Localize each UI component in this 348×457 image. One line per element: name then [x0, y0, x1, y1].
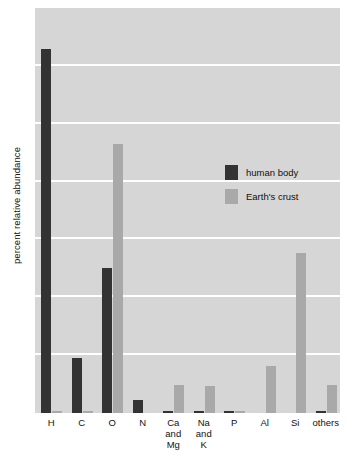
legend: human body Earth's crust — [225, 160, 299, 208]
x-axis-tick-label-line: C — [68, 417, 97, 428]
x-axis-tick-label-line: Na — [190, 417, 219, 428]
legend-label-human-body: human body — [246, 167, 298, 178]
bar — [327, 385, 337, 413]
bar — [235, 411, 245, 413]
x-axis-tick-label: C — [66, 417, 97, 450]
x-axis-tick-label-line: and — [159, 428, 188, 439]
x-axis-tick-label: Si — [279, 417, 310, 450]
bar-group — [249, 8, 280, 413]
x-axis-tick-label: P — [218, 417, 249, 450]
legend-swatch-icon-human-body — [225, 165, 238, 180]
x-axis-tick-labels: HCONCaandMgNaandKPAlSiothers — [35, 417, 340, 450]
bar — [316, 411, 326, 413]
x-axis-tick-label-line: Ca — [159, 417, 188, 428]
bar-groups — [35, 8, 340, 413]
bar-group — [310, 8, 341, 413]
bar — [224, 411, 234, 413]
bar-group — [127, 8, 158, 413]
bar-group — [279, 8, 310, 413]
x-axis-tick-label-line: Al — [251, 417, 280, 428]
bar — [133, 400, 143, 413]
bar-chart: percent relative abundance human body Ea… — [0, 0, 348, 457]
x-axis-tick-label: NaandK — [188, 417, 219, 450]
x-axis-tick-label: N — [127, 417, 158, 450]
bar — [102, 268, 112, 413]
x-axis-tick-label-line: others — [312, 417, 341, 428]
bar-group — [188, 8, 219, 413]
x-axis-tick-label: others — [310, 417, 341, 450]
x-axis-tick-label-line: P — [220, 417, 249, 428]
x-axis-tick-label-line: H — [37, 417, 66, 428]
bar — [41, 49, 51, 414]
bar — [163, 411, 173, 413]
x-axis-tick-label-line: and — [190, 428, 219, 439]
bar — [205, 386, 215, 413]
x-axis-tick-label-line: Mg — [159, 439, 188, 450]
bar — [72, 358, 82, 413]
bar — [174, 385, 184, 413]
x-axis-tick-label-line: Si — [281, 417, 310, 428]
x-axis-tick-label-line: N — [129, 417, 158, 428]
legend-item-human-body: human body — [225, 160, 299, 184]
bar — [113, 144, 123, 413]
x-axis-tick-label-line: O — [98, 417, 127, 428]
bar — [266, 366, 276, 413]
bar — [194, 411, 204, 413]
bar-group — [66, 8, 97, 413]
x-axis-tick-label: CaandMg — [157, 417, 188, 450]
bar-group — [35, 8, 66, 413]
bar-group — [157, 8, 188, 413]
bar — [52, 411, 62, 413]
plot-area: human body Earth's crust — [35, 8, 340, 413]
legend-item-earths-crust: Earth's crust — [225, 184, 299, 208]
x-axis-tick-label-line: K — [190, 439, 219, 450]
x-axis-tick-label: Al — [249, 417, 280, 450]
x-axis-tick-label: H — [35, 417, 66, 450]
legend-swatch-icon-earths-crust — [225, 189, 238, 204]
legend-label-earths-crust: Earth's crust — [246, 191, 299, 202]
bar — [83, 411, 93, 413]
bar-group — [96, 8, 127, 413]
bar-group — [218, 8, 249, 413]
y-axis-title: percent relative abundance — [11, 106, 22, 306]
bar — [296, 253, 306, 413]
x-axis-tick-label: O — [96, 417, 127, 450]
